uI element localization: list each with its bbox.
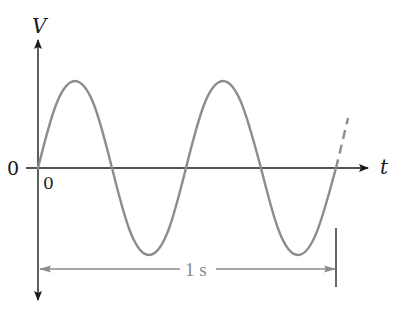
wave-continuation-dashed — [336, 118, 348, 168]
sine-wave-diagram: V t 0 0 1 s — [0, 0, 401, 317]
period-label: 1 s — [185, 259, 207, 280]
x-axis-label: t — [380, 155, 389, 179]
y-axis-label: V — [32, 14, 49, 38]
origin-label-below: 0 — [43, 173, 54, 193]
origin-label-left: 0 — [7, 157, 19, 179]
